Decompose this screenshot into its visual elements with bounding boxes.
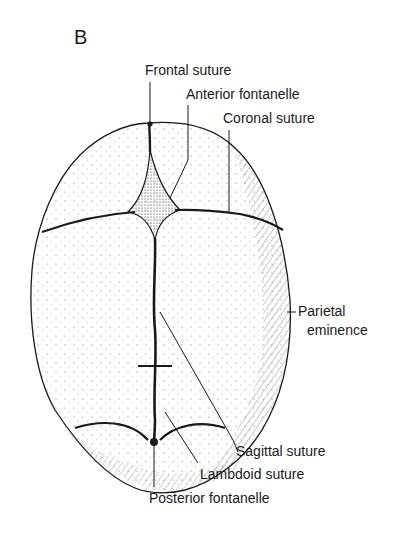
- label-coronal-suture: Coronal suture: [223, 110, 315, 126]
- frontal-suture-line: [149, 123, 150, 152]
- label-anterior-fontanelle: Anterior fontanelle: [186, 86, 300, 102]
- posterior-fontanelle-shape: [150, 438, 158, 446]
- label-posterior-fontanelle: Posterior fontanelle: [149, 490, 270, 506]
- label-parietal-eminence-2: eminence: [307, 322, 368, 338]
- label-lambdoid-suture: Lambdoid suture: [200, 466, 304, 482]
- skull-outline: [31, 122, 291, 492]
- label-sagittal-suture: Sagittal suture: [236, 443, 326, 459]
- label-frontal-suture: Frontal suture: [145, 62, 231, 78]
- label-parietal-eminence-1: Parietal: [298, 303, 345, 319]
